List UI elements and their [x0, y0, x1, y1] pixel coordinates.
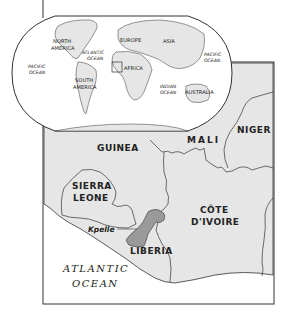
label-sierra-leone-2: LEONE	[73, 193, 109, 203]
label-australia: AUSTRALIA	[185, 89, 214, 95]
label-cote-divoire-1: CÔTE	[200, 204, 229, 215]
label-cote-divoire-2: D'IVOIRE	[191, 217, 239, 227]
label-liberia: LIBERIA	[130, 246, 173, 256]
label-indian-ocean-1: INDIAN	[160, 84, 177, 89]
label-pacific-ocean-east-1: PACIFIC	[204, 52, 222, 57]
label-pacific-ocean-west-1: PACIFIC	[28, 64, 46, 69]
label-niger: NIGER	[237, 125, 271, 135]
label-north-america-1: NORTH	[53, 38, 71, 44]
world-inset-map: NORTH AMERICA SOUTH AMERICA EUROPE ASIA …	[12, 16, 232, 131]
label-europe: EUROPE	[120, 37, 141, 43]
label-pacific-ocean-west-2: OCEAN	[29, 70, 46, 75]
label-south-america-1: SOUTH	[75, 77, 93, 83]
label-atlantic-ocean-inset-1: ATLANTIC	[81, 50, 105, 55]
label-mali: MALI	[187, 135, 220, 145]
label-north-america-2: AMERICA	[51, 45, 75, 51]
label-pacific-ocean-east-2: OCEAN	[204, 58, 221, 63]
label-south-america-2: AMERICA	[73, 84, 97, 90]
label-africa: AFRICA	[124, 65, 143, 71]
label-atlantic-ocean-inset-2: OCEAN	[87, 56, 104, 61]
label-atlantic-ocean-2: OCEAN	[72, 278, 119, 289]
label-asia: ASIA	[163, 38, 175, 44]
label-kpelle: Kpelle	[88, 225, 115, 234]
map-figure: GUINEA MALI NIGER SIERRA LEONE CÔTE D'IV…	[0, 0, 287, 317]
label-guinea: GUINEA	[97, 143, 139, 153]
label-atlantic-ocean-1: ATLANTIC	[62, 263, 129, 274]
label-indian-ocean-2: OCEAN	[160, 90, 177, 95]
label-sierra-leone-1: SIERRA	[72, 181, 112, 191]
